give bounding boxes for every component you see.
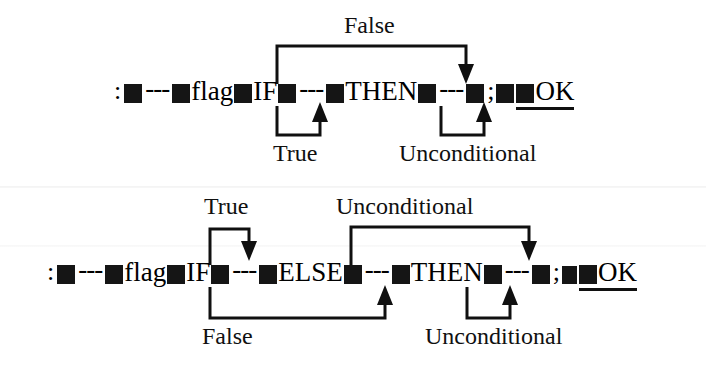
branch-arrows-bottom	[0, 0, 706, 185]
branch-arrows-bottom	[0, 185, 706, 370]
branch-label-unconditional: Unconditional	[399, 140, 536, 166]
arrowhead-unconditional-bottom	[502, 285, 518, 305]
figure-page: False :---flagIF---THEN---;OK True Uncon…	[0, 0, 706, 370]
branch-path-false	[210, 287, 385, 318]
diagram-if-then: False :---flagIF---THEN---;OK True Uncon…	[0, 0, 706, 185]
branch-label-true: True	[273, 140, 317, 166]
arrowhead-true	[312, 102, 328, 122]
branch-label-false: False	[202, 323, 253, 349]
diagram-if-else-then: True Unconditional :---flagIF---ELSE---T…	[0, 185, 706, 370]
arrowhead-false	[377, 285, 393, 305]
branch-label-unconditional-bottom: Unconditional	[425, 323, 562, 349]
arrowhead-unconditional	[476, 102, 492, 122]
